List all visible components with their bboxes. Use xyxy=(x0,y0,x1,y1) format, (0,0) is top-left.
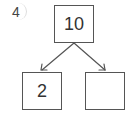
whole-box: 10 xyxy=(54,5,94,43)
part-right-box[interactable] xyxy=(85,72,125,110)
whole-value: 10 xyxy=(64,14,84,35)
part-left-box: 2 xyxy=(22,72,62,110)
arrow-right-icon xyxy=(74,43,105,70)
arrow-left-icon xyxy=(42,43,74,70)
part-left-value: 2 xyxy=(37,81,47,102)
